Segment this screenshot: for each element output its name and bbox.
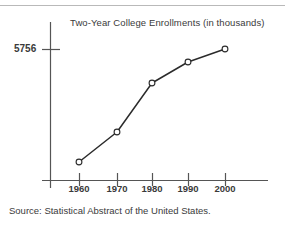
y-axis-tick-label: 5756: [14, 44, 36, 54]
source-note: Source: Statistical Abstract of the Unit…: [9, 206, 211, 216]
data-point-1960: [76, 159, 82, 165]
x-axis-label-1970: 1970: [106, 184, 127, 194]
data-point-1990: [185, 59, 191, 65]
data-point-2000: [222, 46, 228, 52]
data-point-1970: [114, 129, 120, 135]
data-point-1980: [149, 80, 155, 86]
x-axis-label-1990: 1990: [177, 184, 198, 194]
x-axis-label-1980: 1980: [141, 184, 162, 194]
x-axis-label-1960: 1960: [68, 184, 89, 194]
chart-canvas: [0, 0, 285, 195]
x-axis-label-2000: 2000: [214, 184, 235, 194]
chart-screenshot: Two-Year College Enrollments (in thousan…: [0, 0, 285, 232]
data-series-line: [79, 49, 225, 162]
line-chart: Two-Year College Enrollments (in thousan…: [0, 0, 285, 195]
chart-title: Two-Year College Enrollments (in thousan…: [70, 18, 265, 28]
